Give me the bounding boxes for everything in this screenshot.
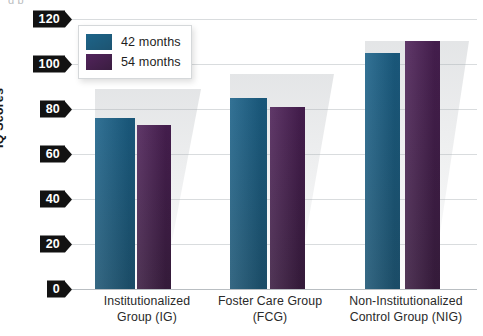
bar-ig-42-months[interactable]	[95, 118, 135, 289]
y-tick-20: 20	[40, 236, 72, 253]
legend-label: 42 months	[121, 35, 181, 49]
tick-arrow-icon	[65, 146, 72, 162]
x-label-fcg: Foster Care Group (FCG)	[200, 293, 340, 325]
tick-arrow-icon	[65, 101, 72, 117]
y-tick-100: 100	[33, 56, 72, 73]
legend-item-54-months[interactable]: 54 months	[86, 52, 181, 72]
bar-fcg-42-months[interactable]	[230, 98, 267, 289]
x-label-line2: Control Group (NIG)	[330, 309, 482, 325]
iq-scores-bar-chart: g p IQ Scores 120 100 80 6	[0, 0, 483, 336]
x-label-line1: Foster Care Group	[200, 293, 340, 309]
tick-arrow-icon	[65, 11, 72, 27]
legend-swatch-icon	[86, 34, 112, 50]
y-tick-label: 40	[40, 191, 65, 208]
x-label-line1: Non-Institutionalized	[330, 293, 482, 309]
legend: 42 months 54 months	[78, 25, 192, 79]
y-tick-label: 80	[40, 101, 65, 118]
y-tick-120: 120	[33, 11, 72, 28]
y-tick-label: 100	[33, 56, 65, 73]
bar-nig-54-months[interactable]	[405, 41, 440, 289]
legend-item-42-months[interactable]: 42 months	[86, 32, 181, 52]
tick-arrow-icon	[65, 191, 72, 207]
y-tick-label: 0	[47, 281, 65, 298]
legend-label: 54 months	[121, 55, 181, 69]
tick-arrow-icon	[65, 56, 72, 72]
y-tick-label: 120	[33, 11, 65, 28]
x-label-line2: (FCG)	[200, 309, 340, 325]
y-tick-label: 20	[40, 236, 65, 253]
x-label-nig: Non-Institutionalized Control Group (NIG…	[330, 293, 482, 325]
y-tick-80: 80	[40, 101, 72, 118]
y-tick-label: 60	[40, 146, 65, 163]
gridline-120: 120	[72, 19, 477, 20]
bar-fcg-54-months[interactable]	[270, 107, 305, 289]
bar-ig-54-months[interactable]	[137, 125, 171, 289]
y-axis-title: IQ Scores	[0, 88, 6, 148]
legend-swatch-icon	[86, 54, 112, 70]
bar-nig-42-months[interactable]	[365, 53, 400, 289]
x-axis-labels: Institutionalized Group (IG) Foster Care…	[72, 293, 477, 336]
y-tick-60: 60	[40, 146, 72, 163]
y-tick-40: 40	[40, 191, 72, 208]
cut-off-heading-text: g p	[8, 0, 308, 4]
tick-arrow-icon	[65, 236, 72, 252]
gridline-0-baseline: 0	[72, 289, 477, 290]
